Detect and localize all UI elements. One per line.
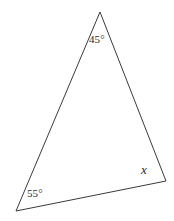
bottom-right-angle-label: x: [141, 163, 147, 176]
triangle-figure: 45° 55° x: [0, 0, 174, 221]
apex-angle-label: 45°: [89, 34, 105, 45]
bottom-left-angle-label: 55°: [27, 188, 43, 199]
